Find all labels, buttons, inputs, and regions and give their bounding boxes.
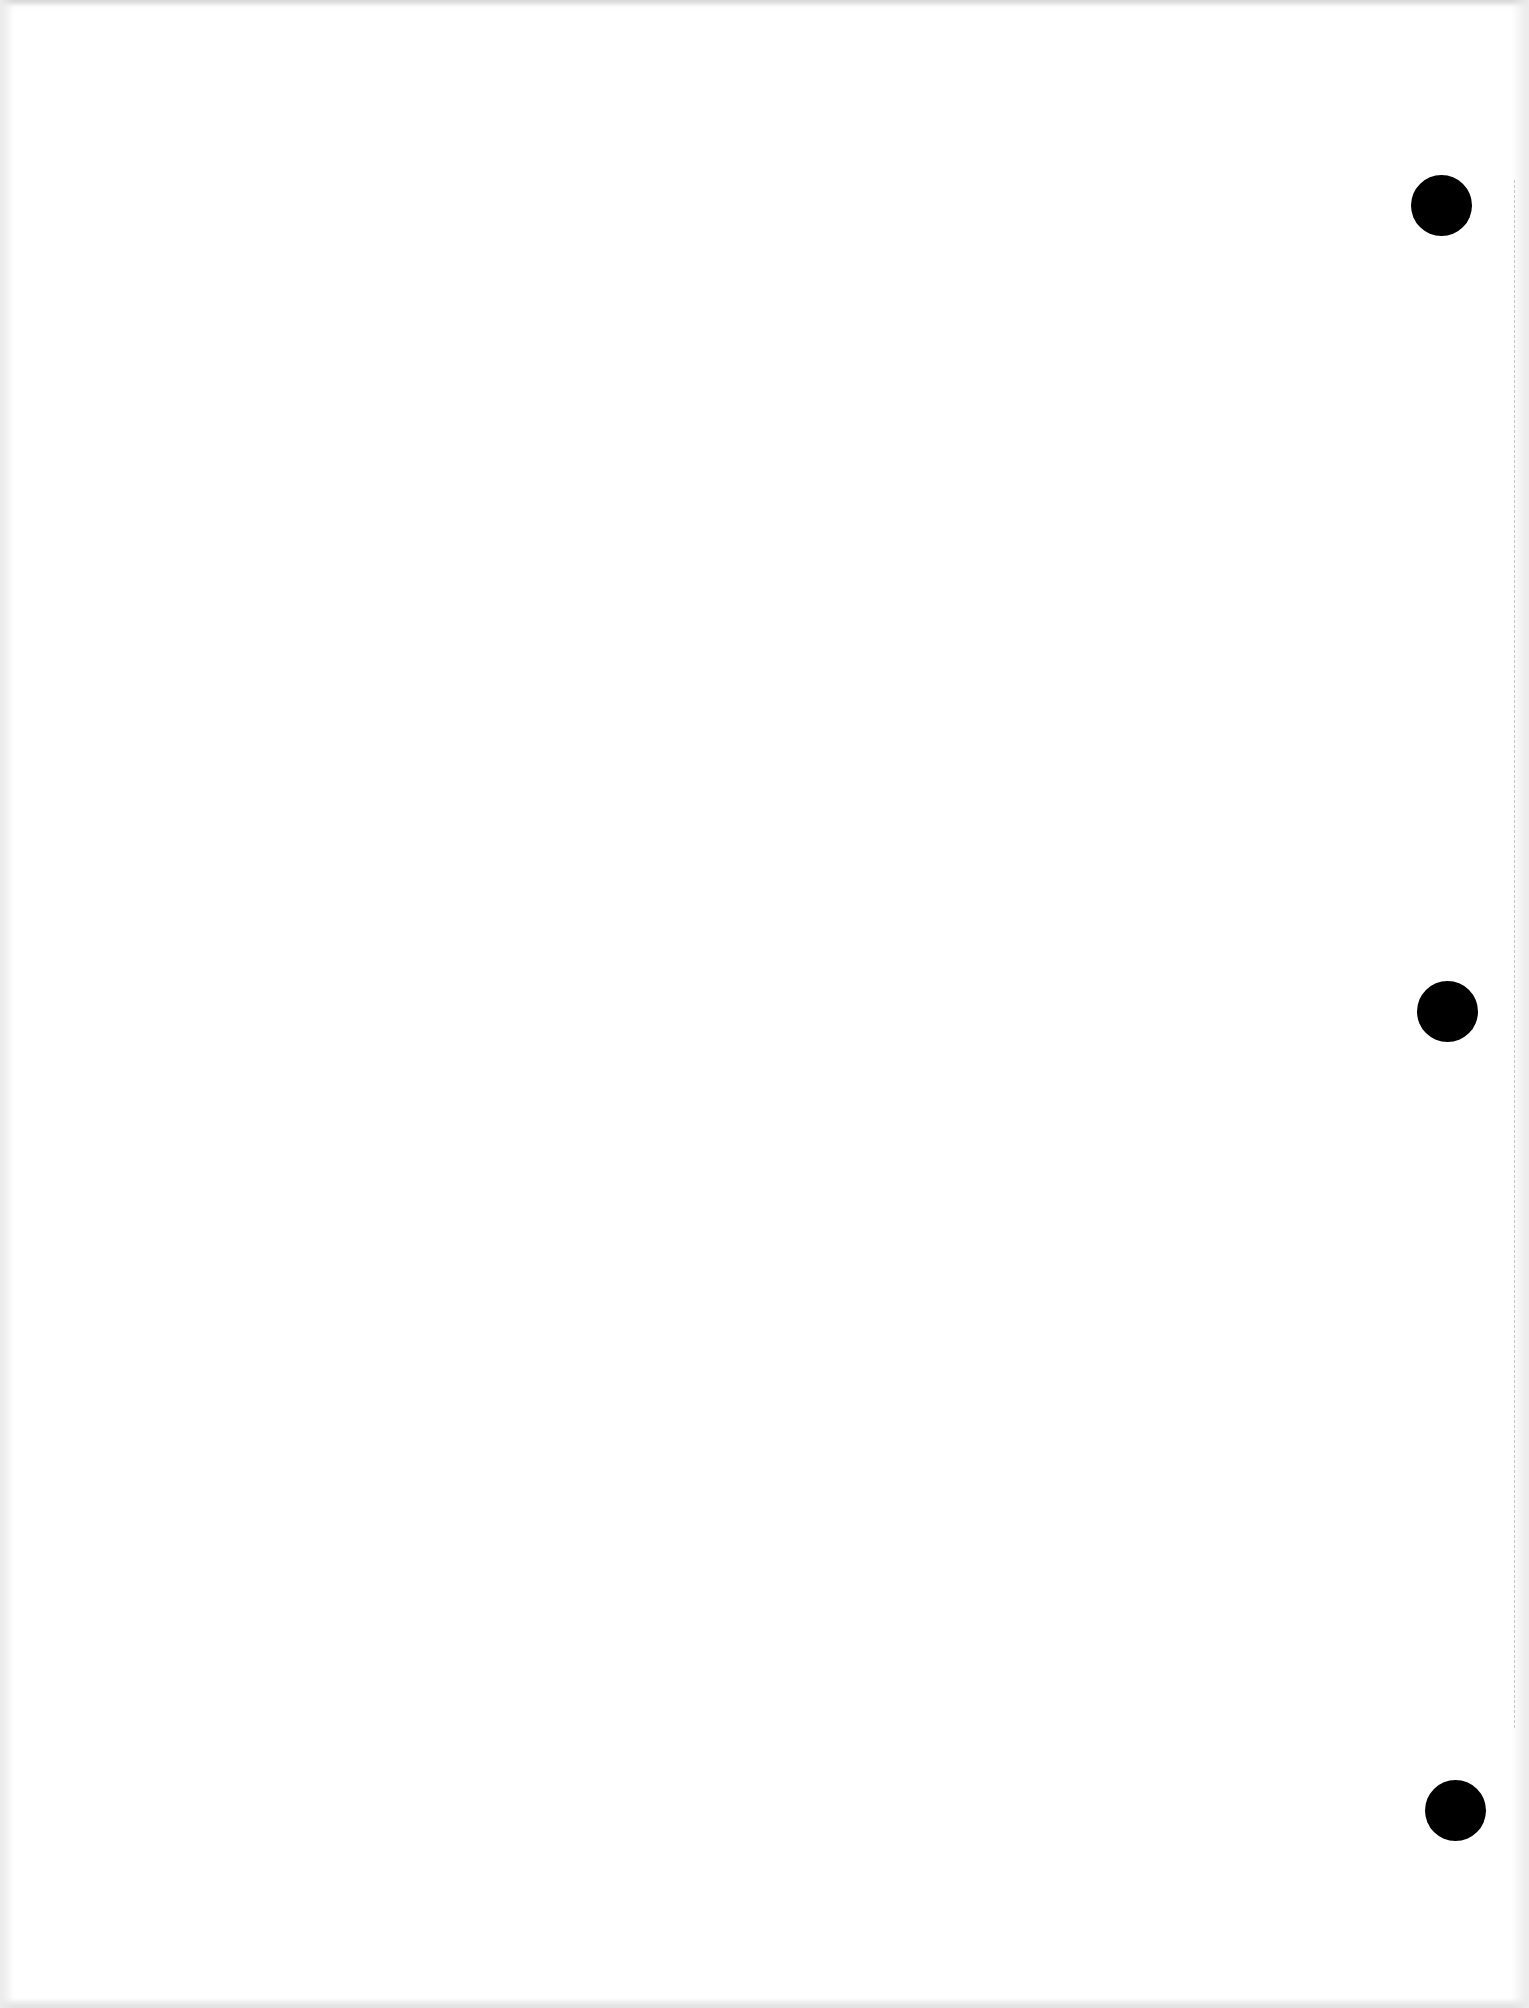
scan-shadow-left (0, 0, 14, 2008)
punch-hole-middle (1417, 981, 1478, 1042)
scan-shadow-top (0, 0, 1529, 6)
perforation-line (1514, 180, 1515, 1728)
blank-paper-page (0, 0, 1529, 2008)
punch-hole-top (1411, 175, 1472, 236)
punch-hole-bottom (1425, 1780, 1486, 1841)
scan-shadow-bottom (0, 1998, 1529, 2008)
